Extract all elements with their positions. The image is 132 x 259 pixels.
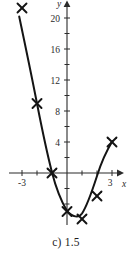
data-point-marker xyxy=(93,192,102,201)
data-point-marker xyxy=(108,138,117,147)
y-tick-label-12: 12 xyxy=(51,76,61,86)
x-tick-label-neg3: -3 xyxy=(18,178,26,188)
y-axis-label: y xyxy=(56,0,62,9)
figure-container: -3 3 4 8 12 16 20 x y xyxy=(0,0,132,259)
y-axis-arrowhead xyxy=(64,1,71,8)
figure-caption: c) 1.5 xyxy=(0,236,132,248)
x-tick-label-3: 3 xyxy=(108,178,113,188)
parabola-curve xyxy=(19,17,112,217)
parabola-chart: -3 3 4 8 12 16 20 x y xyxy=(0,0,132,230)
data-point-marker xyxy=(78,215,87,224)
y-tick-label-8: 8 xyxy=(55,107,60,117)
y-tick-label-16: 16 xyxy=(51,45,61,55)
x-axis-arrowhead xyxy=(117,170,124,177)
y-axis xyxy=(64,1,71,226)
y-tick-label-20: 20 xyxy=(51,14,61,24)
data-point-marker xyxy=(18,4,27,13)
x-axis-label: x xyxy=(121,179,127,189)
y-tick-label-4: 4 xyxy=(55,138,60,148)
